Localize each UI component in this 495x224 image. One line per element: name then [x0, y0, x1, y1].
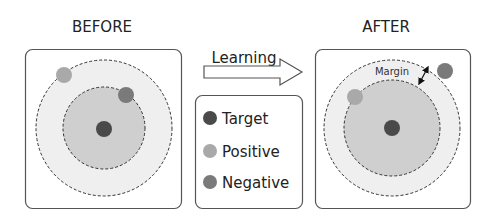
- legend-negative-icon: [203, 175, 217, 189]
- learning-diagram: BEFORE Learning Target Positive Negative…: [0, 0, 495, 224]
- before-positive-dot: [56, 67, 72, 83]
- legend-target-icon: [203, 111, 217, 125]
- margin-label: Margin: [375, 66, 409, 77]
- legend-negative-label: Negative: [222, 174, 289, 192]
- legend-positive-label: Positive: [222, 143, 280, 161]
- before-target-dot: [96, 121, 112, 137]
- before-title: BEFORE: [72, 18, 132, 36]
- legend-target-label: Target: [221, 110, 269, 128]
- after-positive-dot: [347, 89, 363, 105]
- after-target-dot: [384, 120, 400, 136]
- after-negative-dot: [437, 63, 453, 79]
- after-title: AFTER: [362, 18, 410, 36]
- before-panel: [26, 50, 182, 209]
- learning-label: Learning: [211, 49, 276, 67]
- legend-positive-icon: [203, 144, 217, 158]
- before-negative-dot: [118, 87, 134, 103]
- legend: Target Positive Negative: [196, 96, 303, 209]
- after-panel: Margin: [316, 50, 471, 209]
